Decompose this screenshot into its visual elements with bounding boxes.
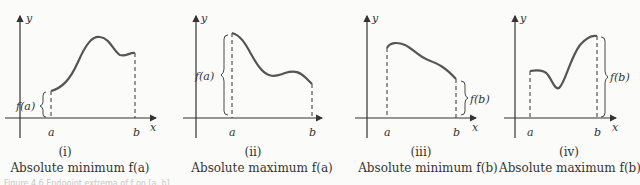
b-label: b [133, 126, 140, 139]
x-axis-label: x [472, 121, 479, 134]
b-label: b [594, 126, 601, 139]
panel-iii: y x a b f(b) (iii) Absolute minimum f(b) [355, 12, 498, 175]
x-axis-label: x [150, 121, 157, 134]
figure-footer: Figure 4.6 Endpoint extrema of f on [a, … [4, 179, 170, 185]
brace-label: f(b) [609, 71, 630, 84]
panel-numeral: (i) [58, 145, 71, 159]
a-label: a [384, 126, 391, 139]
brace-icon [601, 37, 608, 117]
panel-caption: Absolute minimum f(a) [9, 161, 149, 175]
panel-i: y x a b f(a) (i) Absolute minimum f(a) [5, 12, 157, 175]
panel-numeral: (ii) [244, 145, 261, 159]
endpoint-extrema-figure: y x a b f(a) (i) Absolute minimum f(a) y… [0, 0, 640, 185]
brace-label: f(a) [194, 70, 214, 83]
panel-caption: Absolute maximum f(b) [498, 161, 640, 175]
panel-caption: Absolute minimum f(b) [357, 161, 498, 175]
a-label: a [229, 126, 236, 139]
y-axis-label: y [519, 12, 527, 25]
panel-numeral: (iv) [559, 145, 579, 159]
panel-iv: y x a b f(b) (iv) Absolute maximum f(b) [498, 12, 640, 175]
y-axis-label: y [200, 12, 208, 25]
y-axis-label: y [371, 12, 379, 25]
b-label: b [309, 126, 316, 139]
panel-caption: Absolute maximum f(a) [190, 161, 332, 175]
curve [51, 37, 135, 91]
brace-label: f(a) [15, 100, 35, 113]
brace-icon [221, 35, 228, 115]
x-axis-label: x [612, 121, 619, 134]
curve [530, 36, 597, 88]
brace-icon [461, 81, 468, 115]
brace-icon [40, 92, 46, 117]
brace-label: f(b) [469, 93, 490, 106]
y-axis-label: y [25, 12, 33, 25]
a-label: a [527, 126, 534, 139]
curve [387, 43, 456, 79]
curve [232, 33, 312, 84]
a-label: a [48, 126, 55, 139]
b-label: b [453, 126, 460, 139]
panel-ii: y a b f(a) (ii) Absolute maximum f(a) [183, 12, 333, 175]
panel-numeral: (iii) [411, 145, 432, 159]
